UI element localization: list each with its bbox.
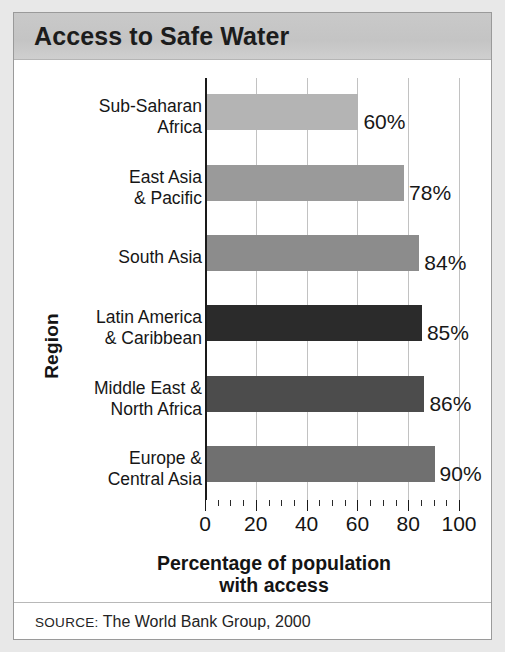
plot-container: Region Sub-Saharan AfricaEast Asia & Pac… xyxy=(14,60,492,640)
x-tick-major xyxy=(205,500,206,511)
x-tick-minor xyxy=(294,500,295,506)
x-axis-ticks: 020406080100 xyxy=(205,500,459,546)
gridline xyxy=(357,78,358,500)
bar-value-label: 90% xyxy=(440,462,482,486)
x-tick-minor xyxy=(218,500,219,506)
bar-value-label: 86% xyxy=(429,392,471,416)
bar-value-label: 60% xyxy=(363,110,405,134)
bar-value-label: 78% xyxy=(409,181,451,205)
x-tick-minor xyxy=(243,500,244,506)
gridline xyxy=(408,78,409,500)
x-tick-minor xyxy=(421,500,422,506)
x-tick-minor xyxy=(370,500,371,506)
title-banner: Access to Safe Water xyxy=(14,13,492,60)
source-divider xyxy=(14,602,492,603)
x-axis-title: Percentage of population with access xyxy=(74,552,474,596)
x-tick-minor xyxy=(446,500,447,506)
bar xyxy=(206,235,419,271)
y-axis-category-label: Latin America & Caribbean xyxy=(54,307,202,349)
x-tick-major xyxy=(459,500,460,511)
x-tick-minor xyxy=(269,500,270,506)
plot-area: 60%78%84%85%86%90% xyxy=(205,78,459,500)
x-tick-label: 80 xyxy=(397,512,420,536)
y-axis-category-label: Sub-Saharan Africa xyxy=(54,96,202,138)
x-tick-minor xyxy=(230,500,231,506)
x-tick-minor xyxy=(383,500,384,506)
x-tick-label: 40 xyxy=(295,512,318,536)
bar-value-label: 85% xyxy=(427,321,469,345)
bar xyxy=(206,165,404,201)
source-note: SOURCE: The World Bank Group, 2000 xyxy=(35,613,311,631)
x-tick-minor xyxy=(396,500,397,506)
x-tick-label: 20 xyxy=(244,512,267,536)
y-axis-category-label: Middle East & North Africa xyxy=(54,378,202,420)
chart-figure: Access to Safe Water Region Sub-Saharan … xyxy=(13,12,492,640)
bar xyxy=(206,376,424,412)
bar-value-label: 84% xyxy=(424,251,466,275)
x-tick-major xyxy=(408,500,409,511)
source-value: The World Bank Group, 2000 xyxy=(99,613,311,630)
y-axis-category-label: South Asia xyxy=(54,247,202,268)
bar xyxy=(206,94,358,130)
page-title: Access to Safe Water xyxy=(34,22,289,51)
source-label: SOURCE: xyxy=(35,615,99,630)
gridline xyxy=(307,78,308,500)
y-axis-category-label: Europe & Central Asia xyxy=(54,448,202,490)
gridline xyxy=(256,78,257,500)
x-tick-minor xyxy=(319,500,320,506)
x-tick-label: 100 xyxy=(441,512,476,536)
y-axis-tick-labels: Sub-Saharan AfricaEast Asia & PacificSou… xyxy=(54,84,202,494)
x-tick-minor xyxy=(281,500,282,506)
x-tick-minor xyxy=(345,500,346,506)
bar xyxy=(206,446,435,482)
y-axis-line xyxy=(205,78,207,500)
x-tick-major xyxy=(357,500,358,511)
bar xyxy=(206,305,422,341)
x-tick-minor xyxy=(434,500,435,506)
x-tick-label: 60 xyxy=(346,512,369,536)
x-tick-minor xyxy=(332,500,333,506)
gridline xyxy=(459,78,460,500)
x-tick-major xyxy=(256,500,257,511)
y-axis-category-label: East Asia & Pacific xyxy=(54,167,202,209)
x-tick-label: 0 xyxy=(199,512,211,536)
x-tick-major xyxy=(307,500,308,511)
